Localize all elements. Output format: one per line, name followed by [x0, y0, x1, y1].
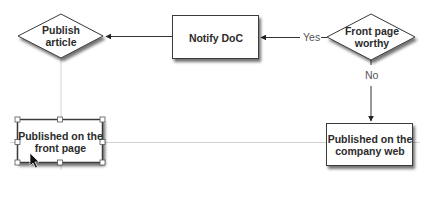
node-publish-article-shape[interactable] [18, 14, 103, 58]
resize-handle-sw[interactable] [15, 160, 20, 165]
edge-label-yes[interactable]: Yes [302, 31, 321, 43]
resize-handle-w[interactable] [15, 140, 20, 145]
diagram-canvas[interactable] [0, 0, 435, 205]
resize-handle-s[interactable] [58, 160, 63, 165]
node-front-page-worthy-shape[interactable] [327, 14, 415, 60]
edge-label-no[interactable]: No [364, 69, 379, 81]
resize-handle-se[interactable] [100, 160, 105, 165]
resize-handle-n[interactable] [58, 117, 63, 122]
node-published-company-web-shape[interactable] [327, 124, 413, 166]
resize-handle-nw[interactable] [15, 117, 20, 122]
resize-handle-ne[interactable] [100, 117, 105, 122]
node-notify-doc-shape[interactable] [173, 16, 259, 59]
resize-handle-e[interactable] [100, 140, 105, 145]
